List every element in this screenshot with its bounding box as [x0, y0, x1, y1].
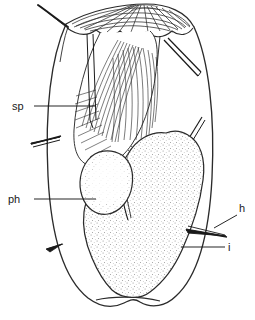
- label-h: h: [239, 202, 245, 214]
- leader-h: [214, 215, 237, 228]
- anatomical-drawing: sp ph h i: [0, 0, 255, 320]
- label-ph: ph: [8, 193, 20, 205]
- label-i: i: [228, 241, 230, 253]
- label-sp: sp: [12, 100, 24, 112]
- figure-root: sp ph h i: [0, 0, 255, 320]
- pharynx-lumen: [90, 160, 126, 204]
- anterior-plate-outline: [66, 4, 194, 27]
